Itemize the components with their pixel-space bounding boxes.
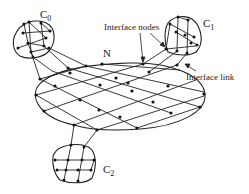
network-diagram: C0 C1 C2 N Interface nodes Interface lin… [0,0,249,194]
cluster-c2 [53,144,96,183]
label-c0: C0 [40,8,51,23]
cluster-c0 [13,21,54,59]
label-interface-link: Interface link [186,72,235,82]
label-n: N [103,47,111,59]
label-c1: C1 [203,17,214,32]
interface-links-c2 [71,125,97,147]
label-interface-nodes: Interface nodes [104,22,160,32]
central-network-n [34,62,205,131]
cluster-c1 [165,16,202,56]
label-c2: C2 [103,163,114,178]
